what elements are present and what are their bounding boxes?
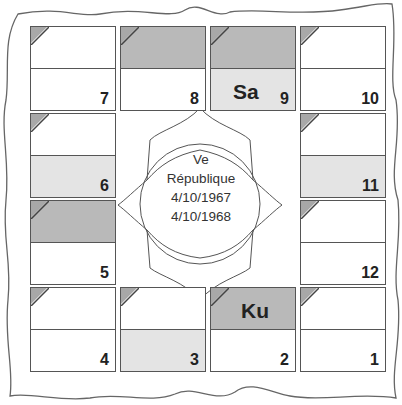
house-4[interactable]: 4 bbox=[30, 287, 116, 372]
center-line-1: Ve bbox=[141, 150, 261, 169]
house-number: 3 bbox=[190, 352, 199, 368]
corner-marker-icon bbox=[301, 114, 319, 132]
house-11[interactable]: 11 bbox=[300, 113, 386, 198]
corner-marker-icon bbox=[301, 201, 319, 219]
house-number: 5 bbox=[100, 265, 109, 281]
corner-marker-icon bbox=[301, 27, 319, 45]
house-number: 2 bbox=[280, 352, 289, 368]
house-7[interactable]: 7 bbox=[30, 26, 116, 111]
corner-marker-icon bbox=[121, 27, 139, 45]
corner-marker-icon bbox=[31, 27, 49, 45]
house-9[interactable]: Sa 9 bbox=[210, 26, 296, 111]
chart-center-label: Ve République 4/10/1967 4/10/1968 bbox=[141, 150, 261, 226]
house-number: 4 bbox=[100, 352, 109, 368]
house-number: 12 bbox=[361, 265, 379, 281]
house-number: 1 bbox=[370, 352, 379, 368]
corner-marker-icon bbox=[31, 288, 49, 306]
corner-marker-icon bbox=[211, 27, 229, 45]
center-line-2: République bbox=[141, 169, 261, 188]
house-number: 7 bbox=[100, 91, 109, 107]
center-line-3: 4/10/1967 bbox=[141, 188, 261, 207]
house-8[interactable]: 8 bbox=[120, 26, 206, 111]
corner-marker-icon bbox=[31, 114, 49, 132]
house-10[interactable]: 10 bbox=[300, 26, 386, 111]
corner-marker-icon bbox=[121, 288, 139, 306]
house-2[interactable]: Ku 2 bbox=[210, 287, 296, 372]
house-6[interactable]: 6 bbox=[30, 113, 116, 198]
house-number: 6 bbox=[100, 178, 109, 194]
house-5[interactable]: 5 bbox=[30, 200, 116, 285]
center-line-4: 4/10/1968 bbox=[141, 207, 261, 226]
planet-label: Sa bbox=[233, 81, 259, 102]
corner-marker-icon bbox=[31, 201, 49, 219]
house-3[interactable]: 3 bbox=[120, 287, 206, 372]
house-number: 8 bbox=[190, 91, 199, 107]
planet-label: Ku bbox=[241, 300, 269, 321]
corner-marker-icon bbox=[211, 288, 229, 306]
house-1[interactable]: 1 bbox=[300, 287, 386, 372]
corner-marker-icon bbox=[301, 288, 319, 306]
house-number: 11 bbox=[362, 178, 379, 194]
house-number: 9 bbox=[280, 91, 289, 107]
house-number: 10 bbox=[361, 91, 379, 107]
house-12[interactable]: 12 bbox=[300, 200, 386, 285]
